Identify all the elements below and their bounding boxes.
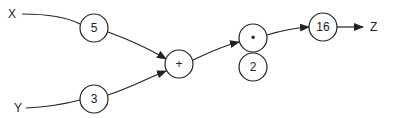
edge-5-to-plus: [108, 32, 166, 59]
input-y-label: Y: [14, 101, 22, 115]
node-add: +: [165, 50, 193, 78]
edge-y-to-3: [26, 100, 80, 108]
node-5: 5: [80, 14, 108, 42]
node-16-label: 16: [316, 20, 330, 34]
edge-3-to-plus: [108, 71, 166, 95]
multiply-dot-icon: •: [251, 31, 255, 45]
input-x-label: X: [8, 7, 16, 21]
plus-icon: +: [175, 57, 182, 71]
edge-mul-to-16: [267, 27, 309, 35]
node-5-label: 5: [91, 21, 98, 35]
node-multiply: •: [239, 24, 267, 52]
edge-x-to-5: [22, 14, 80, 24]
edge-plus-to-mul: [193, 42, 239, 60]
node-3: 3: [80, 85, 108, 113]
node-2: 2: [239, 53, 267, 81]
node-3-label: 3: [91, 92, 98, 106]
output-z-label: Z: [370, 20, 377, 34]
node-2-label: 2: [250, 60, 257, 74]
node-16: 16: [309, 13, 337, 41]
computational-graph-diagram: X Y Z 5 3 + • 2 16: [0, 0, 405, 118]
